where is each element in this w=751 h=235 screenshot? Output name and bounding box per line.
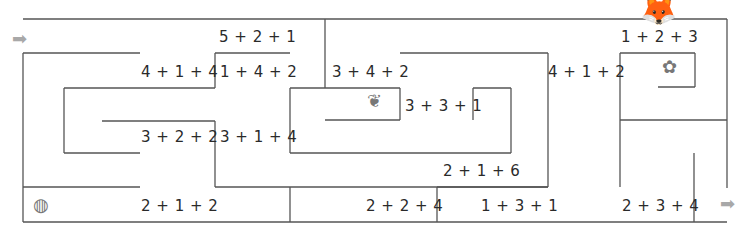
ball-icon: ◍	[33, 194, 49, 215]
expression-label: 3 + 2 + 2	[141, 128, 218, 146]
expression-label: 4 + 1 + 4	[141, 63, 218, 81]
expression-label: 1 + 2 + 3	[621, 28, 698, 46]
fox-icon: 🦊	[640, 0, 677, 27]
flower-icon: ✿	[662, 56, 677, 77]
expression-label: 2 + 3 + 4	[622, 197, 699, 215]
expression-label: 3 + 3 + 1	[405, 97, 482, 115]
start-arrow-icon: ➡	[12, 30, 27, 48]
expression-label: 4 + 1 + 2	[548, 63, 625, 81]
expression-label: 1 + 3 + 1	[481, 197, 558, 215]
expression-label: 2 + 2 + 4	[366, 197, 443, 215]
expression-label: 2 + 1 + 2	[141, 197, 218, 215]
expression-label: 5 + 2 + 1	[219, 28, 296, 46]
end-arrow-icon: ➡	[720, 195, 735, 213]
expression-label: 3 + 4 + 2	[332, 63, 409, 81]
leaf-icon: ❦	[367, 90, 382, 111]
expression-label: 2 + 1 + 6	[443, 162, 520, 180]
expression-label: 1 + 4 + 2	[220, 63, 297, 81]
expression-label: 3 + 1 + 4	[220, 128, 297, 146]
